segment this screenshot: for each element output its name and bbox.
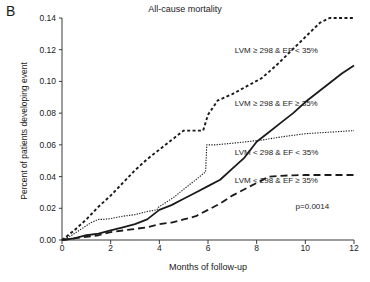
x-tick-label: 8 xyxy=(254,243,259,253)
series-label: LVM < 298 & EF ≥ 35% xyxy=(235,176,318,185)
y-axis-ticks: 0.000.020.040.060.080.100.120.14 xyxy=(0,0,56,282)
y-tick-label: 0.14 xyxy=(39,13,56,23)
y-tick-label: 0.06 xyxy=(39,140,56,150)
x-tick-label: 12 xyxy=(349,243,358,253)
y-tick-label: 0.00 xyxy=(39,235,56,245)
x-tick-label: 6 xyxy=(206,243,211,253)
y-tick-label: 0.04 xyxy=(39,172,56,182)
figure-panel: B All-cause mortality Percent of patient… xyxy=(0,0,370,282)
y-tick-label: 0.12 xyxy=(39,45,56,55)
y-tick-label: 0.02 xyxy=(39,203,56,213)
x-tick-label: 10 xyxy=(301,243,310,253)
p-value-annotation: p=0.0014 xyxy=(296,202,330,211)
x-axis-label: Months of follow-up xyxy=(62,262,354,272)
series-label: LVM ≥ 298 & EF ≥ 35% xyxy=(235,99,318,108)
y-tick-label: 0.08 xyxy=(39,108,56,118)
x-tick-label: 0 xyxy=(60,243,65,253)
x-tick-label: 4 xyxy=(157,243,162,253)
series-label: LVM ≥ 298 & EF < 35% xyxy=(235,46,318,55)
x-tick-label: 2 xyxy=(108,243,113,253)
y-tick-label: 0.10 xyxy=(39,76,56,86)
series-label: LVM < 298 & EF < 35% xyxy=(235,148,318,157)
